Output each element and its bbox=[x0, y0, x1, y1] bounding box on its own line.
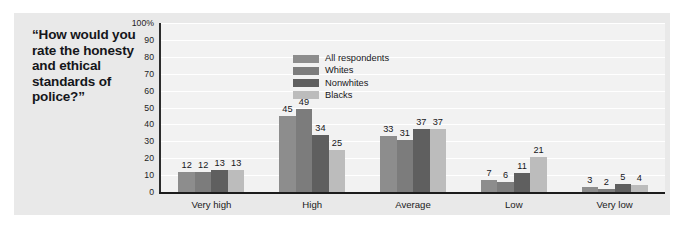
bar-rect bbox=[211, 170, 228, 192]
y-tick-60: 60 bbox=[114, 86, 154, 96]
bar-group-average: 33313737 bbox=[380, 23, 446, 192]
x-tick-average: Average bbox=[395, 199, 431, 210]
bar: 37 bbox=[430, 23, 447, 192]
bar-rect bbox=[329, 150, 346, 192]
bar-rect bbox=[195, 172, 212, 192]
bar-value-label: 3 bbox=[582, 175, 599, 185]
bar: 11 bbox=[514, 23, 531, 192]
bar: 13 bbox=[228, 23, 245, 192]
bar: 13 bbox=[211, 23, 228, 192]
bar-value-label: 45 bbox=[279, 104, 296, 114]
bar-rect bbox=[497, 182, 514, 192]
bar-group-very-low: 3254 bbox=[582, 23, 648, 192]
bar-value-label: 7 bbox=[481, 168, 498, 178]
bar-rect bbox=[430, 129, 447, 192]
legend-label: All respondents bbox=[325, 54, 389, 63]
x-tick-very-low: Very low bbox=[596, 199, 632, 210]
bar: 4 bbox=[631, 23, 648, 192]
bar-value-label: 12 bbox=[178, 160, 195, 170]
x-tick-low: Low bbox=[505, 199, 523, 210]
y-tick-20: 20 bbox=[114, 153, 154, 163]
y-tick-70: 70 bbox=[114, 69, 154, 79]
y-tick-40: 40 bbox=[114, 119, 154, 129]
bar: 37 bbox=[413, 23, 430, 192]
chart-figure: “How would you rate the honesty and ethi… bbox=[14, 13, 670, 215]
y-axis-tick-labels: 100%9080706050403020100 bbox=[114, 23, 154, 194]
bar-value-label: 6 bbox=[497, 170, 514, 180]
legend-swatch-icon bbox=[293, 55, 319, 63]
bar-rect bbox=[481, 180, 498, 192]
bar-value-label: 4 bbox=[631, 173, 648, 183]
bar-group-high: 45493425 bbox=[279, 23, 345, 192]
bar-rect bbox=[312, 135, 329, 192]
y-tick-30: 30 bbox=[114, 136, 154, 146]
legend-item: Nonwhites bbox=[293, 77, 389, 89]
bar: 21 bbox=[530, 23, 547, 192]
bar: 2 bbox=[598, 23, 615, 192]
y-tick-50: 50 bbox=[114, 103, 154, 113]
bar: 12 bbox=[195, 23, 212, 192]
bar: 7 bbox=[481, 23, 498, 192]
y-tick-10: 10 bbox=[114, 170, 154, 180]
x-axis-line bbox=[159, 192, 665, 194]
bar: 33 bbox=[380, 23, 397, 192]
legend-item: All respondents bbox=[293, 53, 389, 65]
bar-rect bbox=[631, 185, 648, 192]
bar-rect bbox=[582, 187, 599, 192]
bar-rect bbox=[279, 116, 296, 192]
legend-label: Whites bbox=[325, 66, 353, 75]
bar: 3 bbox=[582, 23, 599, 192]
x-tick-high: High bbox=[302, 199, 322, 210]
bar-value-label: 21 bbox=[530, 145, 547, 155]
bar-value-label: 5 bbox=[615, 172, 632, 182]
chart-legend: All respondentsWhitesNonwhitesBlacks bbox=[293, 53, 389, 102]
y-tick-90: 90 bbox=[114, 35, 154, 45]
bar-value-label: 31 bbox=[397, 128, 414, 138]
bar-rect bbox=[228, 170, 245, 192]
bar: 45 bbox=[279, 23, 296, 192]
bar-groups: 1212131345493425333137377611213254 bbox=[161, 23, 665, 192]
bar-value-label: 12 bbox=[195, 160, 212, 170]
bar: 5 bbox=[615, 23, 632, 192]
bar-value-label: 2 bbox=[598, 177, 615, 187]
bar-rect bbox=[514, 173, 531, 192]
legend-item: Blacks bbox=[293, 90, 389, 102]
bar-rect bbox=[413, 129, 430, 192]
bar-value-label: 11 bbox=[514, 161, 531, 171]
bar-rect bbox=[530, 157, 547, 192]
bar: 25 bbox=[329, 23, 346, 192]
bar-rect bbox=[178, 172, 195, 192]
bar-group-low: 761121 bbox=[481, 23, 547, 192]
bar-rect bbox=[598, 189, 615, 192]
bar-rect bbox=[296, 109, 313, 192]
legend-label: Nonwhites bbox=[325, 79, 368, 88]
bar-value-label: 13 bbox=[211, 158, 228, 168]
x-axis-tick-labels: Very highHighAverageLowVery low bbox=[161, 199, 665, 215]
bar-value-label: 34 bbox=[312, 123, 329, 133]
bar-value-label: 37 bbox=[430, 117, 447, 127]
bar-value-label: 37 bbox=[413, 117, 430, 127]
legend-swatch-icon bbox=[293, 79, 319, 87]
bar-value-label: 33 bbox=[380, 124, 397, 134]
legend-swatch-icon bbox=[293, 67, 319, 75]
bar: 12 bbox=[178, 23, 195, 192]
bar-value-label: 25 bbox=[329, 138, 346, 148]
y-tick-80: 80 bbox=[114, 52, 154, 62]
legend-label: Blacks bbox=[325, 91, 352, 100]
bar-group-very-high: 12121313 bbox=[178, 23, 244, 192]
bar: 6 bbox=[497, 23, 514, 192]
bar: 49 bbox=[296, 23, 313, 192]
y-tick-0: 0 bbox=[114, 187, 154, 197]
bar: 31 bbox=[397, 23, 414, 192]
y-tick-100: 100% bbox=[114, 18, 154, 28]
bar-rect bbox=[397, 140, 414, 192]
bar-value-label: 13 bbox=[228, 158, 245, 168]
bar-rect bbox=[615, 184, 632, 192]
legend-swatch-icon bbox=[293, 91, 319, 99]
bar-rect bbox=[380, 136, 397, 192]
legend-item: Whites bbox=[293, 65, 389, 77]
x-tick-very-high: Very high bbox=[191, 199, 231, 210]
bar: 34 bbox=[312, 23, 329, 192]
